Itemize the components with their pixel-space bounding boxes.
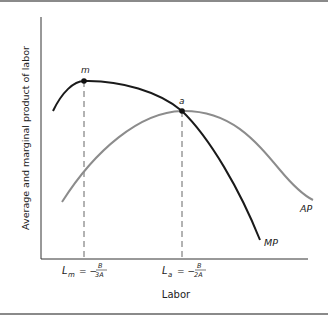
svg-text:= −: = − [177, 266, 195, 276]
ap-curve [62, 111, 313, 202]
y-axis-label: Average and marginal product of labor [20, 46, 31, 230]
x-axis-label: Labor [162, 289, 191, 300]
point-a [179, 108, 185, 114]
svg-text:3A: 3A [95, 271, 104, 279]
chart: m a AP MP Average and marginal product o… [0, 0, 328, 315]
label-m: m [81, 65, 90, 75]
label-mp: MP [264, 237, 278, 248]
svg-text:B: B [197, 262, 202, 270]
tick-label-la: L a = − B 2A [162, 262, 206, 279]
tick-label-lm: L m = − B 3A [62, 262, 107, 279]
label-a: a [179, 96, 185, 106]
svg-text:a: a [168, 271, 172, 279]
point-m [81, 78, 87, 84]
svg-text:L: L [62, 265, 68, 276]
svg-text:m: m [68, 271, 75, 279]
svg-text:L: L [162, 265, 168, 276]
svg-text:2A: 2A [194, 271, 203, 279]
label-ap: AP [299, 203, 312, 214]
svg-text:B: B [98, 262, 103, 270]
